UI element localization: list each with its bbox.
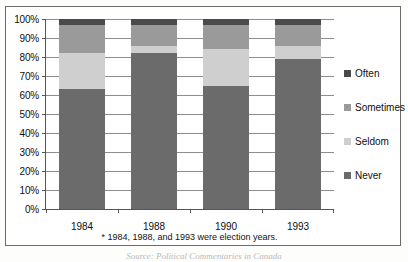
y-axis-label: 90%: [20, 33, 39, 44]
chart-footnote: * 1984, 1988, and 1993 were election yea…: [45, 232, 334, 242]
plot-area: 0%10%20%30%40%50%60%70%80%90%100%1984198…: [45, 19, 334, 210]
bar-segment-sometimes[interactable]: [131, 25, 177, 46]
y-axis-label: 50%: [20, 109, 39, 120]
legend-item-never[interactable]: Never: [344, 158, 404, 192]
y-axis-label: 0%: [25, 204, 39, 215]
y-axis-label: 20%: [20, 166, 39, 177]
y-axis-label: 30%: [20, 147, 39, 158]
bar-segment-never[interactable]: [59, 89, 105, 209]
bar-segment-never[interactable]: [275, 59, 321, 209]
bar-segment-seldom[interactable]: [59, 53, 105, 89]
legend-item-seldom[interactable]: Seldom: [344, 124, 404, 158]
legend-item-often[interactable]: Often: [344, 56, 404, 90]
x-axis-tick: [190, 209, 191, 213]
x-axis-tick: [118, 209, 119, 213]
chart-figure: 0%10%20%30%40%50%60%70%80%90%100%1984198…: [0, 0, 408, 262]
bar-group: 1993: [262, 19, 334, 209]
x-axis-tick: [46, 209, 47, 213]
legend-swatch-icon: [344, 70, 351, 77]
bar-segment-never[interactable]: [203, 86, 249, 210]
y-axis-label: 100%: [14, 14, 39, 25]
bar-segment-sometimes[interactable]: [59, 25, 105, 54]
bar-segment-seldom[interactable]: [203, 49, 249, 85]
stacked-bar[interactable]: [275, 19, 321, 209]
legend-swatch-icon: [344, 138, 351, 145]
legend-swatch-icon: [344, 104, 351, 111]
stacked-bar[interactable]: [59, 19, 105, 209]
legend-label: Often: [355, 68, 379, 79]
stacked-bar[interactable]: [131, 19, 177, 209]
legend-label: Never: [355, 170, 382, 181]
x-axis-tick: [333, 209, 334, 213]
bar-segment-often[interactable]: [131, 19, 177, 25]
x-axis-label: 1990: [215, 221, 237, 232]
bar-segment-sometimes[interactable]: [203, 25, 249, 50]
x-axis-tick: [262, 209, 263, 213]
x-axis-label: 1988: [143, 221, 165, 232]
x-axis-label: 1993: [287, 221, 309, 232]
stacked-bar[interactable]: [203, 19, 249, 209]
legend-label: Sometimes: [355, 102, 405, 113]
y-axis-label: 70%: [20, 71, 39, 82]
y-axis-label: 10%: [20, 185, 39, 196]
bar-group: 1988: [118, 19, 190, 209]
bar-segment-often[interactable]: [203, 19, 249, 25]
bar-segment-often[interactable]: [59, 19, 105, 25]
bar-group: 1990: [190, 19, 262, 209]
bar-segment-never[interactable]: [131, 53, 177, 209]
legend-label: Seldom: [355, 136, 389, 147]
y-axis-label: 60%: [20, 90, 39, 101]
bar-segment-seldom[interactable]: [131, 46, 177, 54]
legend-item-sometimes[interactable]: Sometimes: [344, 90, 404, 124]
bar-segment-sometimes[interactable]: [275, 25, 321, 46]
bar-segment-often[interactable]: [275, 19, 321, 25]
x-axis-label: 1984: [71, 221, 93, 232]
chart-legend: OftenSometimesSeldomNever: [344, 56, 404, 192]
bar-segment-seldom[interactable]: [275, 46, 321, 59]
legend-swatch-icon: [344, 172, 351, 179]
y-axis-label: 40%: [20, 128, 39, 139]
source-caption: Source: Political Commentaries in Canada: [0, 251, 408, 261]
y-axis-label: 80%: [20, 52, 39, 63]
bar-group: 1984: [46, 19, 118, 209]
